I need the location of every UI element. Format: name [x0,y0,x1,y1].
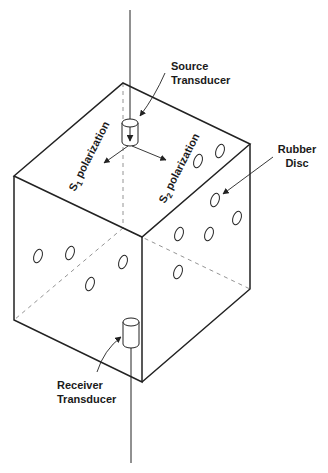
source-transducer [122,119,138,146]
rubber-label-line2: Disc [285,157,308,169]
s2-polarization-label: S2polarization [156,131,204,206]
receiver-label-line2: Transducer [57,393,117,405]
s1-polarization-arrow [104,146,128,163]
rubber-label-line1: Rubber [278,143,317,155]
source-label-line2: Transducer [171,74,231,86]
rubber-discs-left-face [32,245,129,292]
s2-polarization-arrow [132,146,166,160]
source-label-line1: Source [171,60,208,72]
rubber-leader [223,157,273,194]
source-leader [140,73,165,116]
receiver-label-line1: Receiver [57,379,104,391]
s1-polarization-label: S1polarization [66,119,114,194]
receiver-transducer [123,318,139,348]
cube-diagram: Source Transducer Rubber Disc Receiver T… [0,0,328,473]
